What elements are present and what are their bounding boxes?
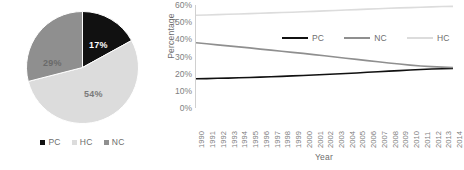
line-legend-item-nc: NC	[344, 33, 387, 43]
pie-legend-item-nc: NC	[104, 137, 125, 147]
x-tick-label: 2004	[349, 131, 357, 148]
x-tick-label: 1991	[209, 131, 217, 148]
x-tick-label: 1996	[263, 131, 271, 148]
x-tick-label: 2012	[435, 131, 443, 148]
x-tick-label: 1990	[198, 131, 206, 148]
x-tick-label: 1992	[220, 131, 228, 148]
line-legend-swatch-pc	[282, 37, 308, 39]
line-series-nc	[196, 43, 453, 68]
pie-slice-label-pc: 17%	[89, 40, 108, 50]
x-tick-label: 2007	[381, 131, 389, 148]
x-tick-label: 2011	[424, 132, 432, 148]
x-tick-label: 1999	[295, 131, 303, 148]
pie-legend-swatch-pc	[40, 140, 45, 145]
x-axis-ticks: 1990199119921993199419951996199719981999…	[195, 110, 453, 152]
pie-legend-swatch-hc	[72, 140, 77, 145]
y-tick-label: 0%	[180, 104, 192, 112]
x-tick-label: 2008	[392, 131, 400, 148]
x-tick-label: 1998	[284, 131, 292, 148]
pie-legend-item-hc: HC	[72, 137, 93, 147]
line-chart-legend: PC NC HC	[282, 33, 450, 43]
x-tick-label: 2000	[306, 131, 314, 148]
y-tick-label: 50%	[175, 18, 192, 26]
x-tick-label: 2009	[402, 131, 410, 148]
line-legend-label-pc: PC	[312, 33, 324, 43]
x-tick-label: 2005	[359, 131, 367, 148]
x-tick-label: 2006	[370, 131, 378, 148]
y-tick-label: 20%	[175, 70, 192, 78]
pie-legend-swatch-nc	[104, 140, 109, 145]
x-tick-label: 1995	[252, 131, 260, 148]
pie-slice-label-hc: 54%	[84, 89, 103, 99]
line-plot-svg	[196, 5, 453, 108]
x-tick-label: 1994	[241, 131, 249, 148]
x-tick-label: 1993	[231, 131, 239, 148]
pie-legend-item-pc: PC	[40, 137, 60, 147]
x-tick-label: 2001	[317, 131, 325, 148]
pie-legend: PC HC NC	[0, 137, 165, 147]
pie-chart-panel: 17% 54% 29% PC HC NC	[0, 0, 165, 170]
y-tick-label: 60%	[175, 1, 192, 9]
y-tick-label: 40%	[175, 35, 192, 43]
x-axis-title: Year	[195, 152, 453, 162]
pie-legend-label-pc: PC	[48, 137, 60, 147]
pie-legend-label-hc: HC	[80, 137, 93, 147]
line-series-hc	[196, 6, 453, 15]
line-legend-swatch-hc	[407, 37, 433, 39]
x-tick-label: 2002	[327, 131, 335, 148]
y-tick-label: 10%	[175, 87, 192, 95]
line-legend-swatch-nc	[344, 37, 370, 39]
pie-legend-label-nc: NC	[112, 137, 125, 147]
line-legend-label-hc: HC	[437, 33, 450, 43]
line-plot-area	[195, 5, 453, 108]
y-tick-label: 30%	[175, 53, 192, 61]
x-tick-label: 1997	[274, 131, 282, 148]
line-legend-item-hc: HC	[407, 33, 450, 43]
x-tick-label: 2010	[413, 131, 421, 148]
line-series-pc	[196, 68, 453, 78]
x-tick-label: 2003	[338, 131, 346, 148]
x-tick-label: 2014	[456, 131, 464, 148]
line-chart-panel: Percentage 0%10%20%30%40%50%60% PC NC HC…	[158, 0, 460, 170]
x-tick-label: 2013	[445, 131, 453, 148]
line-legend-label-nc: NC	[374, 33, 387, 43]
line-legend-item-pc: PC	[282, 33, 324, 43]
pie-slice-label-nc: 29%	[43, 58, 62, 68]
pie-chart: 17% 54% 29%	[26, 11, 139, 124]
y-axis-ticks: 0%10%20%30%40%50%60%	[164, 0, 192, 112]
